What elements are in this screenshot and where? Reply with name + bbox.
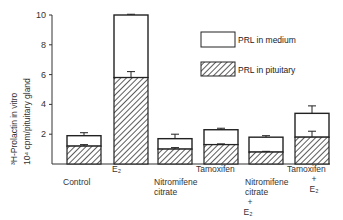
y-tick-label: 4 [41,99,46,109]
bar-pituitary [204,145,238,164]
category-label: Nitromifene [154,177,198,187]
bar-medium [249,137,283,152]
category-label: citrate [154,187,177,197]
stacked-bar-chart: 246810 ControlE₂NitromifenecitrateTamoxi… [0,0,343,220]
bar-group [204,128,238,164]
category-label: E₂ [310,184,319,194]
legend-label-medium: PRL in medium [238,35,296,45]
y-axis-label: ³H-Prolactin in vitro 10⁴ cpm/pituitary … [9,78,32,165]
category-label: Tamoxifen [287,164,326,174]
bar-pituitary [158,149,192,164]
legend-swatch-pituitary [201,62,235,76]
y-tick-label: 10 [36,10,46,20]
bar-medium [204,130,238,145]
y-axis-label-line1: ³H-Prolactin in vitro [9,92,19,165]
bar-group [249,136,283,164]
y-axis-label-line2: 10⁴ cpm/pituitary gland [22,78,32,165]
y-tick-label: 8 [41,40,46,50]
legend-label-pituitary: PRL in pituitary [238,65,296,75]
legend-swatch-medium [201,32,235,47]
bar-pituitary [249,152,283,164]
bar-pituitary [295,137,329,164]
bar-group [114,14,148,164]
bar-pituitary [67,146,101,164]
category-label: Nitromifene [245,177,289,187]
category-label: + [248,197,253,207]
bar-group [67,133,101,164]
category-label: Control [63,177,91,187]
category-label: + [312,174,317,184]
category-label: E₂ [244,207,253,217]
legend: PRL in medium PRL in pituitary [201,32,296,76]
category-label: E₂ [112,164,121,174]
y-tick-label: 2 [41,129,46,139]
bar-group [295,106,329,164]
bar-pituitary [114,78,148,164]
category-label: citrate [245,187,268,197]
y-tick-label: 6 [41,70,46,80]
bar-medium [114,15,148,78]
category-label: Tamoxifen [196,164,235,174]
category-labels: ControlE₂NitromifenecitrateTamoxifenNitr… [63,164,326,217]
bar-group [158,134,192,164]
